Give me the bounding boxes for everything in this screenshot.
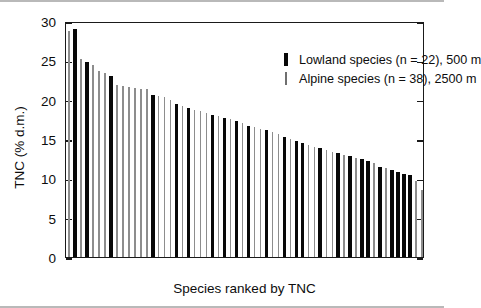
bar-alpine-10 [122, 86, 124, 257]
bar-alpine-35 [272, 132, 274, 257]
bar-alpine-26 [218, 116, 220, 257]
legend-label-alpine: Alpine species (n = 38), 2500 m [299, 72, 476, 86]
bar-alpine-17 [164, 97, 166, 257]
bar-lowland-8 [109, 76, 113, 257]
bar-lowland-4 [85, 62, 89, 257]
bar-alpine-42 [314, 147, 316, 257]
bar-alpine-36 [278, 134, 280, 257]
y-axis-tick-labels: 051015202530 [0, 22, 61, 258]
legend-item-alpine: Alpine species (n = 38), 2500 m [278, 69, 481, 88]
bar-lowland-50 [360, 159, 364, 257]
top-divider-rule [0, 0, 444, 2]
y-axis-tick [66, 258, 72, 259]
bar-alpine-9 [116, 85, 118, 257]
y-axis-tick-label: 0 [48, 251, 56, 266]
y-axis-tick-right [417, 258, 423, 259]
bar-lowland-15 [151, 95, 155, 257]
legend-swatch-alpine-icon [278, 72, 294, 85]
bar-alpine-1 [68, 31, 70, 257]
bar-alpine-23 [200, 111, 202, 257]
bar-lowland-25 [211, 115, 215, 257]
bar-alpine-49 [355, 158, 357, 257]
bar-alpine-5 [92, 65, 94, 257]
y-axis-tick-label: 25 [41, 54, 56, 69]
y-axis-tick-label: 10 [41, 172, 56, 187]
bar-alpine-54 [385, 168, 387, 257]
bar-lowland-56 [396, 172, 400, 257]
y-axis-tick-label: 15 [41, 133, 56, 148]
bar-alpine-32 [254, 127, 256, 257]
bar-lowland-27 [223, 118, 227, 257]
bar-alpine-13 [140, 89, 142, 257]
bar-alpine-3 [80, 59, 82, 257]
bar-alpine-30 [242, 123, 244, 257]
bar-lowland-40 [301, 143, 305, 257]
bar-lowland-51 [366, 161, 370, 257]
bar-lowland-53 [378, 167, 382, 257]
bar-alpine-7 [104, 73, 106, 257]
legend-item-lowland: Lowland species (n = 22), 500 m [278, 50, 481, 69]
chart-legend: Lowland species (n = 22), 500 m Alpine s… [278, 50, 481, 88]
bar-lowland-39 [295, 141, 299, 257]
bar-lowland-48 [348, 156, 352, 257]
bar-lowland-31 [247, 126, 251, 257]
bar-lowland-19 [175, 104, 179, 257]
legend-swatch-lowland-icon [278, 53, 294, 66]
bar-alpine-38 [290, 139, 292, 257]
x-axis-title: Species ranked by TNC [65, 281, 424, 296]
bar-alpine-12 [134, 88, 136, 257]
bar-alpine-16 [158, 96, 160, 257]
bar-alpine-14 [146, 89, 148, 257]
bar-alpine-18 [170, 100, 172, 257]
bar-alpine-47 [343, 155, 345, 257]
legend-label-lowland: Lowland species (n = 22), 500 m [299, 53, 481, 67]
y-axis-tick-label: 30 [41, 15, 56, 30]
y-axis-tick-label: 5 [48, 211, 56, 226]
bar-lowland-37 [283, 137, 287, 257]
bar-lowland-46 [336, 153, 340, 257]
y-axis-tick-label: 20 [41, 93, 56, 108]
bar-lowland-34 [265, 130, 269, 257]
bar-alpine-24 [206, 113, 208, 257]
bar-alpine-44 [326, 150, 328, 257]
bar-lowland-29 [235, 121, 239, 257]
bar-alpine-6 [98, 71, 100, 257]
bar-alpine-20 [182, 106, 184, 257]
bar-lowland-2 [73, 29, 77, 257]
bar-alpine-33 [260, 129, 262, 257]
bar-lowland-55 [390, 170, 394, 257]
bar-alpine-45 [332, 152, 334, 257]
bar-lowland-58 [408, 175, 412, 257]
bar-lowland-21 [187, 108, 191, 257]
bar-alpine-59 [415, 181, 417, 257]
plot-area: Lowland species (n = 22), 500 m Alpine s… [65, 22, 424, 258]
bar-alpine-60 [421, 190, 423, 257]
bar-alpine-28 [230, 119, 232, 257]
bar-lowland-57 [402, 174, 406, 257]
bar-alpine-52 [373, 163, 375, 257]
bar-alpine-41 [308, 145, 310, 257]
bar-alpine-11 [128, 87, 130, 257]
bar-alpine-22 [194, 110, 196, 257]
bar-lowland-43 [318, 148, 322, 257]
